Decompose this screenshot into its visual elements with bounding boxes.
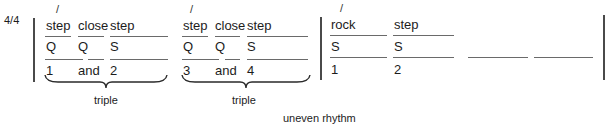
divider — [247, 59, 308, 60]
divider — [393, 57, 454, 58]
beat-type: S — [331, 40, 340, 54]
step-label: rock — [331, 18, 356, 32]
step-label: step — [46, 19, 71, 33]
group-label: triple — [232, 94, 256, 106]
barline-middle — [320, 17, 322, 80]
beat-type: Q — [215, 40, 225, 54]
divider — [225, 59, 240, 60]
divider — [330, 57, 387, 58]
step-label: step — [183, 19, 208, 33]
group-label: triple — [94, 94, 118, 106]
divider — [88, 59, 104, 60]
divider — [182, 36, 208, 37]
count: 1 — [331, 63, 338, 77]
divider — [45, 59, 83, 60]
barline-end — [603, 15, 605, 80]
divider — [330, 35, 387, 36]
divider — [247, 36, 308, 37]
count: 2 — [394, 63, 401, 77]
blank-slot-line — [534, 57, 593, 58]
divider — [393, 35, 454, 36]
divider — [182, 59, 219, 60]
beat-type: S — [110, 40, 119, 54]
step-label: step — [394, 18, 419, 32]
step-label: step — [110, 19, 135, 33]
divider — [78, 36, 104, 37]
barline-start — [33, 18, 35, 82]
divider — [45, 36, 71, 37]
divider — [110, 36, 168, 37]
beat-type: Q — [78, 40, 88, 54]
blank-slot-line — [468, 57, 528, 58]
caption: uneven rhythm — [283, 112, 356, 124]
beat-type: Q — [183, 40, 193, 54]
beat-type: S — [247, 40, 256, 54]
time-signature: 4/4 — [4, 14, 19, 26]
accent-mark: / — [190, 4, 193, 15]
beat-type: S — [394, 40, 403, 54]
divider — [215, 36, 240, 37]
accent-mark: / — [340, 3, 343, 14]
curly-brace-icon — [44, 74, 168, 90]
accent-mark: / — [56, 4, 59, 15]
step-label: close — [215, 19, 245, 33]
beat-type: Q — [46, 40, 56, 54]
step-label: close — [78, 19, 108, 33]
curly-brace-icon — [181, 74, 311, 90]
divider — [110, 59, 168, 60]
step-label: step — [247, 19, 272, 33]
